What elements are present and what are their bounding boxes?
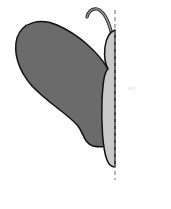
butterfly-wing: [16, 22, 108, 147]
butterfly-illustration: [0, 0, 171, 209]
symmetry-diagram: Half butterfly with line of symmetry: [0, 0, 171, 209]
butterfly-antenna: [87, 9, 111, 31]
butterfly-body: [102, 30, 115, 167]
faint-mark: [128, 87, 135, 90]
